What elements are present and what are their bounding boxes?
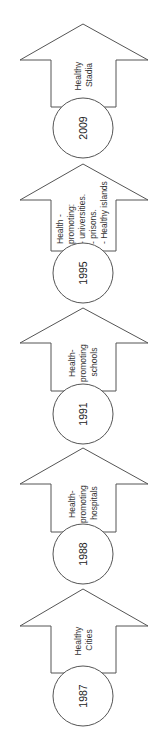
timeline-diagram: Healthy Stadia 2009 Health - promoting: … [0,0,160,747]
year-label: 1988 [77,542,89,566]
year-label: 1987 [77,684,89,708]
milestone-label: Health- promoting schools [67,342,99,382]
milestone-2009: Healthy Stadia 2009 [20,24,148,158]
year-label: 1991 [77,402,89,426]
milestone-1995: Health - promoting: - universities. - pr… [20,164,148,303]
year-label: 1995 [77,261,89,285]
milestone-1987: Healthy Cities 1987 [20,589,148,726]
milestone-label: Health- promoting hospitals [67,483,99,523]
milestone-1988: Health- promoting hospitals 1988 [20,448,148,584]
milestone-1991: Health- promoting schools 1991 [20,308,148,444]
milestone-label: Healthy Stadia [73,59,94,90]
year-label: 2009 [77,116,89,140]
